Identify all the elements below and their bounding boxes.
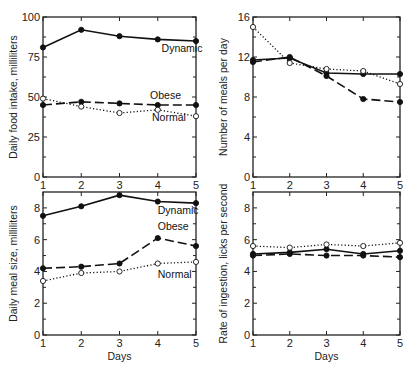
x-tick-label: 3 — [323, 337, 329, 349]
chart-panel-1: 123450255075100Daily food intake, millil… — [7, 11, 202, 191]
x-tick-label: 4 — [155, 179, 161, 191]
x-tick-label: 5 — [397, 179, 403, 191]
y-tick-label: 50 — [28, 91, 40, 103]
y-tick-label: 8 — [244, 202, 250, 214]
data-point-marker — [117, 269, 122, 274]
series-annotation: Normal — [152, 111, 186, 123]
data-point-marker — [397, 255, 402, 260]
series-annotation: Normal — [158, 268, 192, 280]
data-point-marker — [324, 253, 329, 258]
y-tick-label: 6 — [244, 234, 250, 246]
y-tick-label: 8 — [244, 91, 250, 103]
y-tick-label: 4 — [244, 131, 250, 143]
data-point-marker — [250, 253, 255, 258]
data-point-marker — [79, 204, 84, 209]
x-axis-label: Days — [108, 350, 132, 362]
data-point-marker — [397, 248, 402, 253]
data-point-marker — [40, 278, 45, 283]
x-tick-label: 3 — [116, 179, 122, 191]
series-annotation: Dynamic — [162, 42, 203, 54]
y-axis-label: Number of meals per day — [217, 37, 229, 156]
data-point-marker — [250, 24, 255, 29]
plot-frame — [253, 192, 400, 335]
series-annotation: Obese — [150, 89, 181, 101]
data-point-marker — [397, 71, 402, 76]
data-point-marker — [40, 45, 45, 50]
data-point-marker — [193, 102, 198, 107]
x-tick-label: 2 — [78, 179, 84, 191]
data-point-marker — [397, 240, 402, 245]
data-point-marker — [361, 253, 366, 258]
x-tick-label: 4 — [360, 337, 366, 349]
data-point-marker — [361, 68, 366, 73]
x-tick-label: 3 — [116, 337, 122, 349]
chart-panel-2: 123450481216Number of meals per day — [217, 11, 403, 191]
plot-frame — [253, 17, 400, 177]
data-point-marker — [79, 104, 84, 109]
data-point-marker — [397, 99, 402, 104]
data-point-marker — [117, 261, 122, 266]
data-point-marker — [250, 243, 255, 248]
y-tick-label: 25 — [28, 131, 40, 143]
data-point-marker — [324, 66, 329, 71]
data-point-marker — [79, 270, 84, 275]
data-point-marker — [155, 261, 160, 266]
x-tick-label: 2 — [287, 179, 293, 191]
x-tick-label: 5 — [397, 337, 403, 349]
y-tick-label: 75 — [28, 51, 40, 63]
y-tick-label: 6 — [34, 234, 40, 246]
x-tick-label: 4 — [155, 337, 161, 349]
data-point-marker — [193, 243, 198, 248]
data-point-marker — [193, 259, 198, 264]
data-point-marker — [79, 27, 84, 32]
figure: 123450255075100Daily food intake, millil… — [0, 0, 417, 373]
y-axis-label: Daily meal size, milliliters — [7, 205, 19, 322]
x-tick-label: 1 — [250, 179, 256, 191]
data-point-marker — [324, 73, 329, 78]
data-point-marker — [117, 193, 122, 198]
data-point-marker — [397, 81, 402, 86]
y-tick-label: 100 — [22, 11, 40, 23]
data-point-marker — [79, 264, 84, 269]
x-tick-label: 5 — [193, 337, 199, 349]
y-axis-label: Daily food intake, milliliters — [7, 35, 19, 159]
y-tick-label: 0 — [34, 329, 40, 341]
data-point-marker — [155, 235, 160, 240]
data-point-marker — [155, 37, 160, 42]
y-tick-label: 4 — [34, 265, 40, 277]
y-tick-label: 4 — [244, 265, 250, 277]
data-point-marker — [117, 101, 122, 106]
data-point-marker — [250, 59, 255, 64]
x-tick-label: 1 — [40, 179, 46, 191]
data-point-marker — [287, 54, 292, 59]
data-point-marker — [40, 102, 45, 107]
x-tick-label: 1 — [40, 337, 46, 349]
x-tick-label: 2 — [78, 337, 84, 349]
data-point-marker — [361, 96, 366, 101]
x-tick-label: 1 — [250, 337, 256, 349]
data-point-marker — [117, 110, 122, 115]
y-tick-label: 12 — [238, 51, 250, 63]
data-point-marker — [193, 114, 198, 119]
y-tick-label: 0 — [34, 171, 40, 183]
data-point-marker — [40, 213, 45, 218]
y-tick-label: 2 — [34, 297, 40, 309]
y-tick-label: 8 — [34, 202, 40, 214]
x-axis-label: Days — [315, 350, 339, 362]
data-point-marker — [287, 245, 292, 250]
y-tick-label: 0 — [244, 171, 250, 183]
data-point-marker — [287, 251, 292, 256]
y-tick-label: 16 — [238, 11, 250, 23]
series-obese — [40, 235, 198, 270]
x-tick-label: 5 — [193, 179, 199, 191]
x-tick-label: 4 — [360, 179, 366, 191]
series-annotation: Obese — [158, 220, 189, 232]
data-point-marker — [117, 34, 122, 39]
series-obese — [250, 54, 402, 104]
data-point-marker — [287, 60, 292, 65]
data-point-marker — [40, 266, 45, 271]
y-tick-label: 2 — [244, 297, 250, 309]
data-point-marker — [361, 243, 366, 248]
data-point-marker — [40, 96, 45, 101]
series-annotation: Dynamic — [158, 204, 199, 216]
